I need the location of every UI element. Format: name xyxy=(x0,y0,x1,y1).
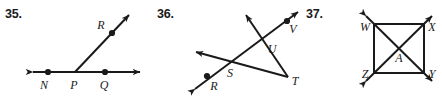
point-label-Y: Y xyxy=(429,67,437,81)
point-dot-Q xyxy=(102,69,108,75)
point-label-Z: Z xyxy=(362,67,369,81)
figure-35-drawing: N P Q R xyxy=(0,0,150,103)
point-label-R: R xyxy=(96,18,105,32)
figure-36: 36. R S T U V xyxy=(150,0,300,103)
point-label-A: A xyxy=(394,51,403,65)
worksheet-page: 35. N P Q R xyxy=(0,0,442,103)
figure-35: 35. N P Q R xyxy=(0,0,150,103)
point-label-U: U xyxy=(268,42,278,56)
point-label-Q: Q xyxy=(100,78,109,92)
point-label-R: R xyxy=(209,79,218,93)
point-label-X: X xyxy=(427,20,436,34)
figure-36-drawing: R S T U V xyxy=(150,0,300,103)
figure-37-drawing: W X Y Z A xyxy=(295,0,442,103)
point-label-P: P xyxy=(69,78,78,92)
point-label-S: S xyxy=(227,66,233,80)
figure-37: 37. W X Y Z A xyxy=(295,0,442,103)
point-dot-N xyxy=(45,69,51,75)
point-label-W: W xyxy=(360,20,371,34)
point-dot-R xyxy=(204,73,210,79)
point-dot-R xyxy=(109,30,115,36)
point-label-N: N xyxy=(39,78,49,92)
line-RV xyxy=(195,12,298,89)
